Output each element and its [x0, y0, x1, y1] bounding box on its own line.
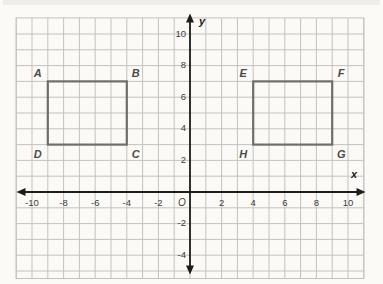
vertex-label-E: E	[240, 67, 248, 79]
x-tick-label--6: -6	[91, 197, 99, 208]
vertex-label-C: C	[132, 148, 141, 160]
y-tick-label--2: -2	[178, 217, 186, 228]
y-tick-label--4: -4	[178, 249, 186, 260]
x-tick-label-4: 4	[251, 197, 256, 208]
x-tick-label-2: 2	[219, 197, 224, 208]
coordinate-plane-figure: ABCDEFGH-10-8-6-4-2246810108642-2-4Oxy	[0, 0, 383, 284]
x-tick-label-8: 8	[314, 197, 319, 208]
figure-background	[0, 0, 383, 284]
y-tick-label-4: 4	[181, 122, 186, 133]
vertex-label-A: A	[33, 67, 42, 79]
y-tick-label-8: 8	[181, 59, 186, 70]
x-tick-label-6: 6	[282, 197, 287, 208]
y-tick-label-10: 10	[175, 28, 186, 39]
plane-svg: ABCDEFGH-10-8-6-4-2246810108642-2-4Oxy	[0, 0, 383, 284]
vertex-label-G: G	[337, 148, 346, 160]
x-tick-label-10: 10	[343, 197, 354, 208]
x-tick-label--4: -4	[123, 197, 131, 208]
vertex-label-D: D	[34, 148, 42, 160]
x-axis-label: x	[350, 168, 358, 180]
y-tick-label-2: 2	[181, 154, 186, 165]
origin-label: O	[178, 197, 186, 208]
vertex-label-F: F	[338, 67, 345, 79]
y-axis-label: y	[198, 15, 206, 27]
vertex-label-H: H	[239, 148, 248, 160]
x-tick-label--8: -8	[59, 197, 67, 208]
y-tick-label-6: 6	[181, 91, 186, 102]
scan-artifact	[3, 0, 380, 5]
x-tick-label--10: -10	[25, 197, 39, 208]
x-tick-label--2: -2	[154, 197, 162, 208]
vertex-label-B: B	[132, 67, 140, 79]
